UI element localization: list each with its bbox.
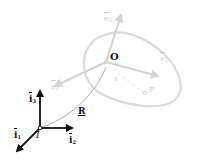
e3-base: e [104,12,109,23]
point-p-label: P [149,86,154,94]
i3-sub: 3 [32,98,35,104]
i1-sub: 1 [17,134,20,140]
relative-position-label: x [114,76,118,83]
i2-sub: 2 [72,139,75,145]
body-origin-label: O [110,52,119,62]
i1-base: i [14,128,17,140]
position-vector-r [40,67,106,128]
rigid-body-diagram [0,0,197,163]
body-origin-marker [105,61,108,64]
inertial-axis-i3-label: i3 [29,92,36,104]
inertial-axis-i2-label: i2 [69,133,76,145]
position-vector-label: R [78,107,85,116]
body-axis-e2 [106,62,158,76]
e3-sub: 3 [109,17,112,23]
i2-base: i [69,133,72,145]
inertial-origin-label: I [36,131,40,140]
e2-base: e [160,52,165,63]
inertial-axis-i1-label: i1 [14,128,21,140]
body-axis-e3-label: e3 [104,12,112,23]
body-axis-e1-label: e1 [51,80,59,91]
i3-base: i [29,92,32,104]
body-axis-e2-label: e2 [160,52,168,63]
e1-base: e [51,80,56,91]
point-p-marker [143,91,146,94]
e1-sub: 1 [56,85,59,91]
e2-sub: 2 [165,57,168,63]
